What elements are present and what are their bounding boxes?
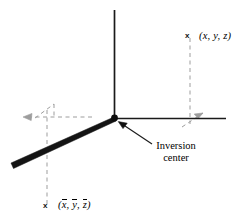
- lower-point-axis-marker: x: [43, 201, 47, 210]
- dashed-diagonal-left: [35, 104, 54, 118]
- lower-paren-close: ): [87, 199, 91, 210]
- inversion-center-figure: x (x, y, z) x (x, y, z) Inversion center: [0, 0, 241, 222]
- dashed-horizontal-left-arrowhead: [23, 113, 32, 120]
- upper-point-coordinate-label: (x, y, z): [199, 30, 231, 42]
- wedge-bond-lower-left: [11, 117, 116, 169]
- upper-paren-close: ): [227, 30, 231, 41]
- lower-point-coordinate-label: (x, y, z): [58, 199, 91, 211]
- upper-point-axis-marker: x: [185, 31, 189, 40]
- inversion-center-caption-line-1: Inversion: [145, 140, 207, 152]
- inversion-center-caption: Inversion center: [145, 140, 207, 164]
- inversion-center-caption-line-2: center: [145, 152, 207, 164]
- inversion-leader-arrowhead: [118, 122, 127, 129]
- inversion-center-dot: [111, 115, 118, 122]
